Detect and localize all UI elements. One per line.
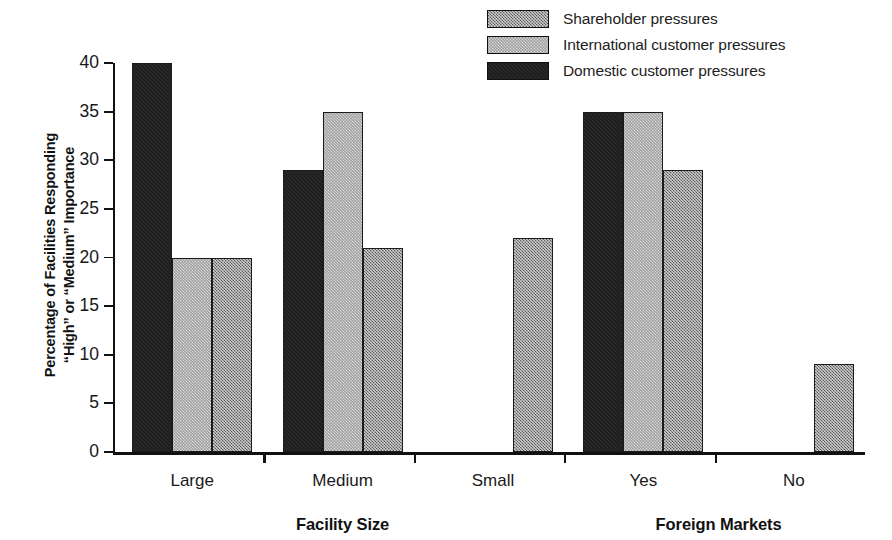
y-axis-tick — [104, 62, 113, 64]
y-axis-tick-label: 10 — [80, 344, 99, 365]
y-axis-tick — [104, 305, 113, 307]
y-axis-tick — [104, 354, 113, 356]
legend-label-shareholder: Shareholder pressures — [563, 10, 718, 28]
x-axis-category-label: Medium — [312, 471, 372, 491]
plot-area: 0510152025303540 LargeMediumSmallYesNo F… — [113, 63, 865, 452]
legend-swatch-international-icon — [487, 36, 549, 54]
bar — [623, 112, 663, 452]
y-axis-tick — [104, 257, 113, 259]
y-axis-tick — [104, 208, 113, 210]
x-axis-section-label: Foreign Markets — [656, 515, 782, 534]
bar — [583, 112, 623, 452]
x-axis-tick — [414, 452, 416, 463]
bar — [132, 63, 172, 452]
y-axis-line — [113, 63, 115, 452]
legend-item-shareholder: Shareholder pressures — [487, 8, 786, 30]
y-axis-tick-label: 15 — [80, 295, 99, 316]
y-axis-tick-label: 30 — [80, 149, 99, 170]
bar — [283, 170, 323, 452]
y-axis-tick — [104, 451, 113, 453]
legend-swatch-shareholder-icon — [487, 10, 549, 28]
x-axis-category-label: Yes — [630, 471, 658, 491]
x-axis-line — [113, 452, 865, 455]
x-axis-tick — [263, 452, 265, 463]
bar — [363, 248, 403, 452]
x-axis-section-label: Facility Size — [296, 515, 389, 534]
y-axis-tick-label: 20 — [80, 247, 99, 268]
bar — [814, 364, 854, 452]
y-axis-tick-label: 5 — [89, 392, 99, 413]
x-axis-tick — [715, 452, 717, 463]
y-axis-tick-label: 40 — [80, 52, 99, 73]
y-axis-tick — [104, 111, 113, 113]
y-axis-tick-label: 0 — [89, 441, 99, 462]
x-axis-tick — [564, 452, 566, 463]
x-axis-category-label: Large — [170, 471, 213, 491]
legend-label-international: International customer pressures — [563, 36, 786, 54]
y-axis-title: Percentage of Facilities Responding “Hig… — [41, 45, 79, 465]
bar-chart-figure: Shareholder pressures International cust… — [0, 0, 892, 540]
x-axis-category-label: No — [783, 471, 805, 491]
bar — [513, 238, 553, 452]
y-axis-tick-label: 35 — [80, 101, 99, 122]
bar — [323, 112, 363, 452]
y-axis-title-line-2: “High” or “Medium” Importance — [60, 45, 79, 465]
y-axis-tick-label: 25 — [80, 198, 99, 219]
y-axis-tick — [104, 402, 113, 404]
bar — [172, 258, 212, 453]
y-axis-title-line-1: Percentage of Facilities Responding — [41, 45, 60, 465]
y-axis-tick — [104, 159, 113, 161]
legend-item-international: International customer pressures — [487, 34, 786, 56]
bar — [663, 170, 703, 452]
x-axis-category-label: Small — [472, 471, 515, 491]
bar — [212, 258, 252, 453]
